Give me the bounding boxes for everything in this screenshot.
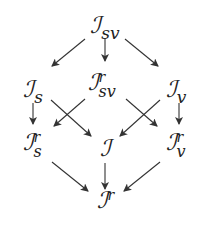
node-base: ℐ: [23, 76, 34, 102]
node-base: ℐ: [23, 129, 34, 155]
node-subscript: v: [177, 143, 186, 159]
node-base: ℐ: [100, 135, 111, 161]
arrow-Isvr-to-Ivr: [126, 99, 157, 126]
node-base: ℐ: [88, 69, 99, 95]
node-I-r: ℐr: [97, 189, 118, 216]
lattice-diagram: ℐsv ℐs ℐrsv ℐv ℐrs ℐ ℐrv ℐr: [0, 0, 206, 233]
node-subscript: s: [34, 143, 42, 159]
arrow-Ivr-to-Ir: [124, 162, 160, 191]
arrow-Isvr-to-Isr: [54, 99, 85, 126]
node-superscript: r: [108, 187, 115, 201]
node-subscript: s: [34, 89, 43, 106]
arrow-Isv-to-Is: [52, 39, 85, 66]
node-I-sv-r: ℐrsv: [88, 71, 123, 98]
node-I-v: ℐv: [166, 78, 187, 101]
arrow-Isv-to-Iv: [125, 39, 158, 66]
node-subscript: v: [177, 89, 187, 106]
node-I-s: ℐs: [23, 78, 43, 101]
arrow-Is-to-I: [51, 100, 91, 136]
node-I-sv: ℐsv: [90, 14, 119, 37]
node-base: ℐ: [90, 12, 101, 38]
node-I-s-r: ℐrs: [23, 131, 46, 158]
node-subscript: sv: [99, 83, 116, 99]
node-subscript: sv: [101, 25, 119, 42]
node-I: ℐ: [100, 137, 111, 160]
arrow-Iv-to-I: [120, 100, 160, 136]
node-base: ℐ: [97, 187, 108, 213]
node-base: ℐ: [166, 129, 177, 155]
node-I-v-r: ℐrv: [166, 131, 189, 158]
arrow-Isr-to-Ir: [52, 162, 88, 191]
node-base: ℐ: [166, 76, 177, 102]
